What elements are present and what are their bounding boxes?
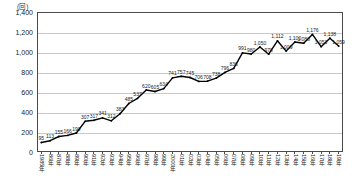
- x-axis-tick-label: 96年: [135, 154, 141, 166]
- data-point-label: 95: [39, 136, 45, 141]
- y-axis-tick-label: 1,200: [2, 29, 33, 36]
- data-point-label: 537: [133, 92, 141, 97]
- x-axis-tick-label: 06年: [222, 154, 228, 166]
- x-axis-tick-label: 93年: [108, 154, 114, 166]
- x-axis-tick-label: 95年: [126, 154, 132, 166]
- data-point-label: 485: [125, 97, 133, 102]
- data-point-label: 312: [107, 114, 115, 119]
- data-point-label: 836: [230, 62, 238, 67]
- y-axis-tick-label: 200: [2, 129, 33, 136]
- x-axis-tick-label: 05年: [213, 154, 219, 166]
- x-axis-tick-label: 87年: [56, 154, 62, 166]
- data-point-label: 706: [195, 75, 203, 80]
- x-axis-tick-label: 09年: [248, 154, 254, 166]
- x-axis-tick-label: 89年: [73, 154, 79, 166]
- data-point-label: 741: [168, 71, 176, 76]
- y-axis-unit-label: (回): [17, 1, 28, 11]
- data-point-label: 796: [221, 66, 229, 71]
- x-axis-tick-label: 12年: [274, 154, 280, 166]
- x-axis-tick-label: 86年: [47, 154, 53, 166]
- x-axis-tick-label: 94年: [117, 154, 123, 166]
- data-point-label: 634: [160, 82, 168, 87]
- x-axis-tick-label: 11年: [266, 154, 272, 166]
- x-axis-tick-label: 17年: [318, 154, 324, 166]
- x-axis-tick-label: 92年: [100, 154, 106, 166]
- data-point-label: 317: [90, 114, 98, 119]
- data-point-label: 307: [81, 115, 89, 120]
- data-point-label: 620: [142, 84, 150, 89]
- data-point-label: 1,009: [280, 45, 293, 50]
- data-point-labels: 9511315516619030731734131238348553762060…: [37, 12, 343, 152]
- x-axis-tick-label: 19年: [336, 154, 342, 166]
- x-axis-tick-label: 13年: [283, 154, 289, 166]
- x-axis-tick-label: 10年: [257, 154, 263, 166]
- x-axis-tick-label: 97年: [143, 154, 149, 166]
- y-axis-tick-label: 400: [2, 109, 33, 116]
- data-point-label: 745: [186, 71, 194, 76]
- data-point-label: 980: [247, 48, 255, 53]
- y-axis-tick-label: 1,000: [2, 49, 33, 56]
- y-axis-tick-label: 800: [2, 69, 33, 76]
- data-point-label: 1,088: [297, 37, 310, 42]
- x-axis-tick-label: 90年: [82, 154, 88, 166]
- x-axis-tick-label: 07年: [231, 154, 237, 166]
- x-axis-tick-label: 16年: [309, 154, 315, 166]
- data-point-label: 1,053: [315, 40, 328, 45]
- data-point-label: 1,138: [324, 32, 337, 37]
- x-axis-tick-label: 1985年: [38, 154, 44, 172]
- data-point-label: 757: [177, 70, 185, 75]
- data-point-label: 155: [55, 130, 63, 135]
- data-point-label: 978: [265, 48, 273, 53]
- x-axis-tick-label: 04年: [204, 154, 210, 166]
- data-point-label: 991: [238, 46, 246, 51]
- data-point-label: 1,059: [332, 40, 345, 45]
- x-axis-tick-label: 01年: [178, 154, 184, 166]
- data-point-label: 738: [212, 72, 220, 77]
- data-point-label: 708: [203, 75, 211, 80]
- line-chart: (回) 02004006008001,0001,2001,400 9511315…: [0, 0, 352, 192]
- x-axis-tick-label: 99年: [161, 154, 167, 166]
- x-axis-tick-label: 18年: [327, 154, 333, 166]
- data-point-label: 190: [72, 127, 80, 132]
- x-axis-tick-label: 88年: [65, 154, 71, 166]
- x-axis-tick-label: 98年: [152, 154, 158, 166]
- x-axis-tick-label: 91年: [91, 154, 97, 166]
- x-axis-tick-label: 15年: [301, 154, 307, 166]
- data-point-label: 113: [46, 134, 54, 139]
- data-point-label: 383: [116, 107, 124, 112]
- data-point-label: 166: [63, 129, 71, 134]
- data-point-label: 1,050: [254, 41, 267, 46]
- data-point-label: 1,112: [271, 34, 283, 39]
- data-point-label: 341: [98, 111, 106, 116]
- data-point-label: 605: [151, 85, 159, 90]
- x-axis-tick-label: 03年: [196, 154, 202, 166]
- x-axis-tick-label: 02年: [187, 154, 193, 166]
- x-axis-tick-label: 14年: [292, 154, 298, 166]
- y-axis-tick-label: 0: [2, 149, 33, 156]
- y-axis-tick-label: 600: [2, 89, 33, 96]
- data-point-label: 1,176: [306, 28, 319, 33]
- x-axis-tick-labels: 1985年86年87年88年89年90年91年92年93年94年95年96年97…: [37, 152, 343, 192]
- x-axis-tick-label: 2000年: [170, 154, 176, 172]
- x-axis-tick-label: 08年: [239, 154, 245, 166]
